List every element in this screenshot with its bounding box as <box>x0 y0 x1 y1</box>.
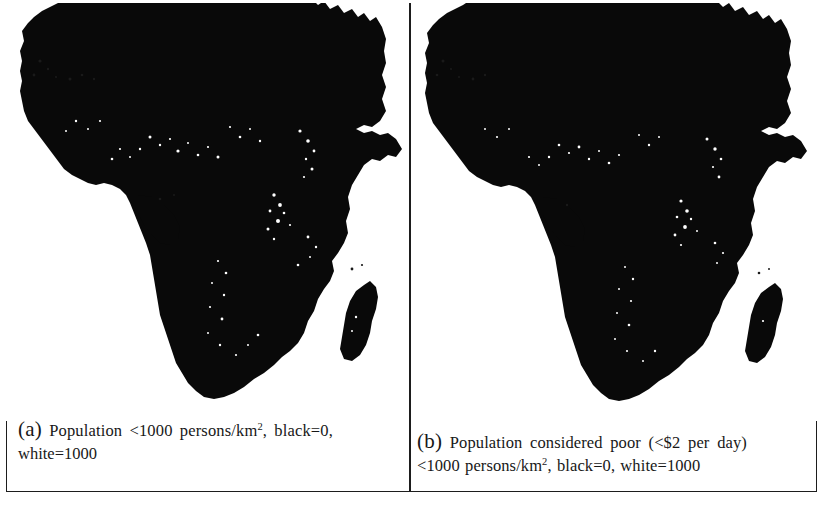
madagascar-b <box>745 283 783 363</box>
caption-b: (b) Population considered poor (<$2 per … <box>417 430 813 477</box>
caption-b-text-1: Population considered poor (<$2 per day) <box>450 433 747 452</box>
figure-root: (a) Population <1000 persons/km2, black=… <box>0 0 824 508</box>
africa-map-a <box>6 3 410 421</box>
caption-b-line-1: (b) Population considered poor (<$2 per … <box>417 430 813 454</box>
caption-a-line-2: white=1000 <box>18 442 404 465</box>
panel-divider <box>409 3 411 492</box>
caption-a-text-1: Population <1000 persons/km <box>49 421 257 440</box>
panel-b-label: (b) <box>417 429 442 453</box>
panel-b: (b) Population considered poor (<$2 per … <box>411 3 817 492</box>
panel-a-label: (a) <box>18 417 42 441</box>
caption-b-text-2-tail: , black=0, white=1000 <box>547 456 700 475</box>
caption-a-line-1: (a) Population <1000 persons/km2, black=… <box>18 418 404 442</box>
panel-a: (a) Population <1000 persons/km2, black=… <box>6 3 410 492</box>
caption-a: (a) Population <1000 persons/km2, black=… <box>18 418 404 465</box>
africa-map-b <box>411 3 817 421</box>
madagascar-a <box>340 281 378 361</box>
caption-b-text-2-head: <1000 persons/km <box>417 456 542 475</box>
caption-a-text-1-tail: , black=0, <box>263 421 333 440</box>
caption-b-line-2: <1000 persons/km2, black=0, white=1000 <box>417 454 813 477</box>
